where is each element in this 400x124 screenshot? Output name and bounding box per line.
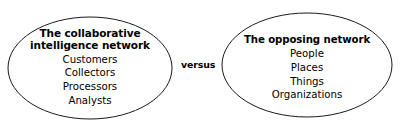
versus-connector-label: versus: [181, 59, 215, 70]
node-title-opposing: The opposing network: [244, 34, 370, 46]
node-title-collaborative: The collaborative intelligence network: [30, 27, 150, 52]
list-item: People: [272, 47, 342, 61]
diagram-canvas: The collaborative intelligence network C…: [0, 0, 400, 124]
node-items-collaborative: Customers Collectors Processors Analysts: [63, 53, 118, 107]
list-item: Processors: [63, 80, 118, 94]
node-title-collaborative-line-2: intelligence network: [30, 39, 150, 51]
node-opposing-network: The opposing network People Places Thing…: [222, 13, 392, 117]
list-item: Collectors: [63, 66, 118, 80]
list-item: Places: [272, 61, 342, 75]
node-items-opposing: People Places Things Organizations: [272, 47, 342, 101]
node-title-collaborative-line-1: The collaborative: [30, 27, 150, 39]
node-title-opposing-line-1: The opposing network: [244, 34, 370, 46]
list-item: Things: [272, 75, 342, 89]
list-item: Organizations: [272, 88, 342, 102]
list-item: Customers: [63, 53, 118, 67]
list-item: Analysts: [63, 94, 118, 108]
node-collaborative-intelligence-network: The collaborative intelligence network C…: [8, 17, 172, 119]
